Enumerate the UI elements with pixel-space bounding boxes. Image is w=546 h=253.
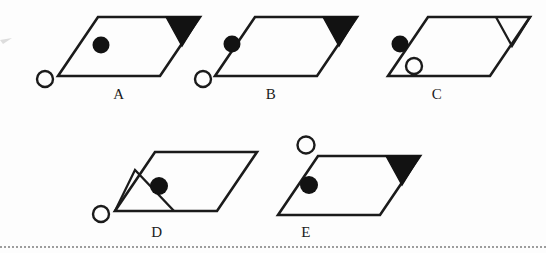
figure-option-d[interactable]	[93, 152, 257, 222]
open-circle-e	[298, 137, 315, 154]
filled-circle-a	[93, 37, 110, 54]
figure-option-a[interactable]	[37, 17, 200, 87]
open-circle-b	[195, 71, 211, 87]
figure-label-d: D	[142, 224, 172, 241]
figure-label-b: B	[256, 86, 286, 103]
filled-circle-e	[300, 176, 318, 194]
figure-option-c[interactable]	[388, 17, 530, 76]
corner-triangle-b	[323, 17, 357, 46]
filled-circle-c	[392, 36, 409, 53]
left-edge-arrow-artifact	[0, 38, 12, 44]
figure-sheet: A B C D E	[0, 0, 546, 253]
figure-label-c: C	[422, 86, 452, 103]
figure-label-a: A	[104, 86, 134, 103]
figure-label-e: E	[291, 224, 321, 241]
open-circle-c	[406, 58, 422, 74]
bottom-dotted-rule	[0, 246, 546, 250]
figure-option-e[interactable]	[278, 137, 420, 216]
corner-triangle-a	[166, 17, 200, 46]
figure-option-b[interactable]	[195, 17, 357, 87]
corner-triangle-e	[386, 156, 420, 185]
figure-options-canvas	[0, 0, 546, 253]
open-circle-d	[93, 206, 109, 222]
open-circle-a	[37, 71, 53, 87]
filled-circle-d	[150, 177, 168, 195]
parallelogram-d	[115, 152, 257, 211]
filled-circle-b	[224, 36, 241, 53]
